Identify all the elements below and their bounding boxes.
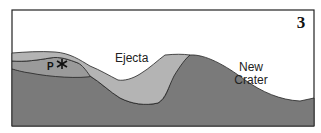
panel-number: 3 bbox=[297, 13, 306, 32]
ejecta-label: Ejecta bbox=[115, 51, 149, 65]
crater-diagram: P Ejecta New Crater 3 bbox=[0, 0, 321, 133]
point-p-label: P bbox=[47, 61, 54, 72]
new-crater-label-line2: Crater bbox=[234, 73, 267, 87]
new-crater-label-line1: New bbox=[239, 60, 263, 74]
